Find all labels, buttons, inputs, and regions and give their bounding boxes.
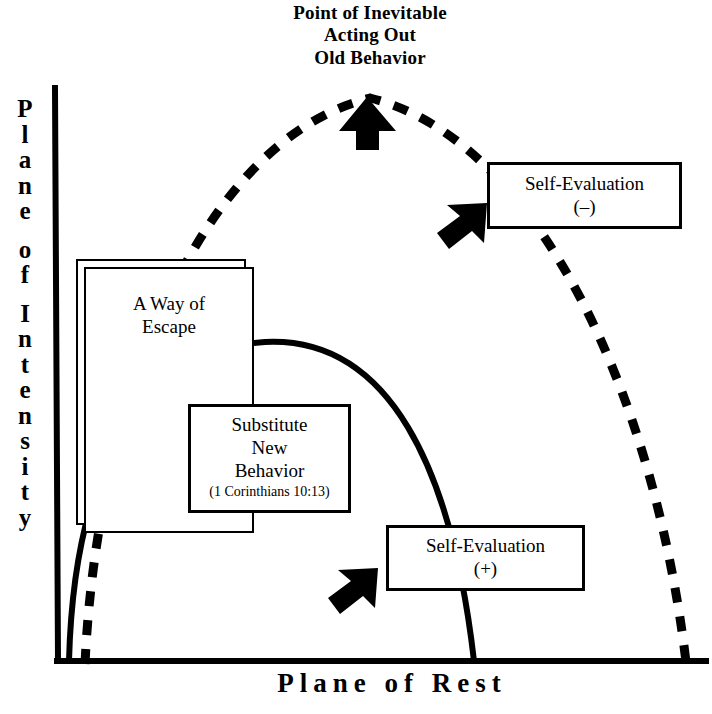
y-axis-char: l: [4, 122, 46, 148]
node-self-evaluation-negative-line1: Self-Evaluation: [525, 173, 644, 196]
top-caption: Point of Inevitable Acting Out Old Behav…: [236, 2, 504, 69]
y-axis-char: i: [4, 454, 46, 480]
y-axis-line: [55, 88, 58, 661]
node-self-evaluation-positive-sign: (+): [474, 558, 497, 581]
node-way-of-escape-line2: Escape: [142, 316, 196, 339]
lower-right-arrow: [328, 568, 378, 614]
node-substitute-new-behavior[interactable]: Substitute New Behavior (1 Corinthians 1…: [188, 404, 351, 513]
y-axis-char: t: [4, 352, 46, 378]
y-axis-char: n: [4, 173, 46, 199]
y-axis-char: n: [4, 403, 46, 429]
y-axis-char: e: [4, 198, 46, 224]
y-axis-char: I: [4, 301, 46, 327]
node-substitute-line3: Behavior: [235, 460, 305, 483]
x-axis-title: Plane of Rest: [216, 668, 568, 700]
y-axis-word-gap: [4, 224, 46, 237]
y-axis-char: f: [4, 262, 46, 288]
y-axis-char: s: [4, 428, 46, 454]
node-way-of-escape-line1: A Way of: [133, 293, 205, 316]
node-self-evaluation-negative-sign: (–): [573, 196, 595, 219]
upper-right-arrow: [437, 203, 487, 249]
node-self-evaluation-negative[interactable]: Self-Evaluation (–): [487, 162, 682, 229]
top-caption-line1: Point of Inevitable: [236, 2, 504, 24]
y-axis-char: t: [4, 479, 46, 505]
y-axis-char: a: [4, 147, 46, 173]
node-substitute-line2: New: [252, 437, 288, 460]
node-self-evaluation-positive[interactable]: Self-Evaluation (+): [386, 525, 585, 591]
y-axis-char: P: [4, 96, 46, 122]
diagram-canvas: Point of Inevitable Acting Out Old Behav…: [0, 0, 712, 714]
top-caption-line2: Acting Out: [236, 24, 504, 46]
y-axis-word-gap: [4, 288, 46, 301]
y-axis-char: n: [4, 326, 46, 352]
node-substitute-scripture-reference: (1 Corinthians 10:13): [209, 484, 330, 501]
y-axis-char: e: [4, 377, 46, 403]
node-substitute-line1: Substitute: [231, 414, 307, 437]
top-caption-line3: Old Behavior: [236, 47, 504, 69]
y-axis-char: o: [4, 237, 46, 263]
node-self-evaluation-positive-line1: Self-Evaluation: [426, 535, 545, 558]
y-axis-title: P l a n e o f I n t e n s i t y: [4, 96, 46, 530]
y-axis-char: y: [4, 505, 46, 531]
